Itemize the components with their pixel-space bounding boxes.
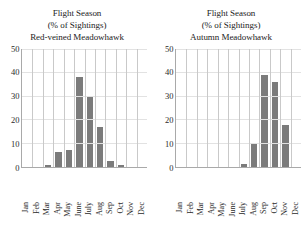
gridline-vertical — [74, 49, 75, 167]
y-axis-left: 01020304050 — [2, 49, 21, 168]
x-tick-label: May — [218, 202, 226, 217]
bar-slot — [270, 49, 280, 167]
gridline-vertical — [64, 49, 65, 167]
bar-slot — [291, 49, 301, 167]
chart-title-right-line3: Autumn Meadowhawk — [154, 31, 308, 43]
gridline-vertical — [95, 49, 96, 167]
x-tick-slot: Nov — [126, 200, 137, 240]
x-tick-label: July — [85, 202, 93, 215]
x-tick-slot: Sep — [259, 200, 270, 240]
x-tick-slot: Nov — [280, 200, 291, 240]
dual-bar-chart-figure: Flight Season (% of Sightings) Red-veine… — [0, 0, 308, 240]
x-tick-slot: Apr — [207, 200, 218, 240]
x-tick-slot: July — [84, 200, 95, 240]
x-tick-label: May — [64, 202, 72, 217]
x-tick-label: Oct — [271, 202, 279, 214]
x-axis-right: JanFebMarAprMayJuneJulyAugSepOctNovDec — [175, 200, 301, 240]
bar-slot — [228, 49, 238, 167]
gridline-vertical — [116, 49, 117, 167]
bar — [251, 144, 257, 166]
x-tick-slot: Sep — [105, 200, 116, 240]
bar — [97, 127, 103, 167]
x-tick-slot: Feb — [32, 200, 43, 240]
x-tick-label: July — [239, 202, 247, 215]
bar — [55, 152, 61, 166]
gridline-vertical — [137, 49, 138, 167]
y-axis-right: 01020304050 — [156, 49, 175, 168]
plot-area-left — [21, 49, 147, 168]
bar-slot — [85, 49, 95, 167]
gridline-vertical — [43, 49, 44, 167]
x-tick-label: Apr — [54, 202, 62, 214]
y-tick-label: 50 — [11, 44, 20, 54]
x-tick-label: Feb — [33, 202, 41, 214]
bar-slot — [197, 49, 207, 167]
x-tick-slot: Apr — [53, 200, 64, 240]
bar-slot — [95, 49, 105, 167]
gridline-vertical — [280, 49, 281, 167]
x-tick-label: Apr — [208, 202, 216, 214]
chart-title-right-line2: (% of Sightings) — [154, 19, 308, 31]
bar-slot — [43, 49, 53, 167]
gridline-vertical — [105, 49, 106, 167]
chart-title-left-line3: Red-veined Meadowhawk — [0, 31, 154, 43]
x-tick-label: Aug — [250, 202, 258, 216]
bar-slot — [207, 49, 217, 167]
x-tick-slot: Aug — [95, 200, 106, 240]
x-tick-slot: Oct — [270, 200, 281, 240]
gridline-vertical — [249, 49, 250, 167]
x-tick-slot: July — [238, 200, 249, 240]
y-tick-label: 0 — [169, 163, 173, 173]
gridline-vertical — [126, 49, 127, 167]
bar-slot — [176, 49, 186, 167]
x-tick-label: Sep — [106, 202, 114, 214]
chart-title-right: Flight Season (% of Sightings) Autumn Me… — [154, 0, 308, 44]
x-tick-label: Feb — [187, 202, 195, 214]
bar — [118, 165, 124, 166]
x-tick-slot: Oct — [116, 200, 127, 240]
x-tick-slot: June — [228, 200, 239, 240]
y-tick-label: 50 — [165, 44, 174, 54]
gridline-vertical — [259, 49, 260, 167]
gridline-vertical — [291, 49, 292, 167]
bar-slot — [53, 49, 63, 167]
x-tick-slot: Aug — [249, 200, 260, 240]
x-tick-slot: Dec — [137, 200, 148, 240]
bar — [107, 161, 113, 167]
y-tick-label: 10 — [11, 139, 20, 149]
x-tick-slot: May — [63, 200, 74, 240]
bar-slot — [137, 49, 147, 167]
chart-panel-red-veined-meadowhawk: Flight Season (% of Sightings) Red-veine… — [0, 0, 154, 240]
y-tick-label: 20 — [165, 115, 174, 125]
x-tick-label: Nov — [127, 202, 135, 216]
gridline-vertical — [186, 49, 187, 167]
bar-slot — [64, 49, 74, 167]
x-tick-slot: Feb — [186, 200, 197, 240]
y-tick-label: 30 — [11, 91, 20, 101]
bar — [282, 125, 288, 166]
gridline-vertical — [85, 49, 86, 167]
x-tick-label: Oct — [117, 202, 125, 214]
gridline-vertical — [239, 49, 240, 167]
x-tick-label: Sep — [260, 202, 268, 214]
gridline-vertical — [197, 49, 198, 167]
bar-slot — [126, 49, 136, 167]
plot-area-right — [175, 49, 301, 168]
x-tick-slot: Jan — [21, 200, 32, 240]
y-tick-label: 20 — [11, 115, 20, 125]
gridline-vertical — [32, 49, 33, 167]
x-tick-label: Dec — [292, 202, 300, 215]
chart-title-left-line1: Flight Season — [0, 7, 154, 19]
y-tick-label: 0 — [15, 163, 19, 173]
gridline-vertical — [228, 49, 229, 167]
x-tick-slot: Mar — [196, 200, 207, 240]
x-tick-label: June — [75, 202, 83, 217]
plot-wrap-left: 01020304050 — [0, 44, 154, 200]
x-tick-label: Nov — [281, 202, 289, 216]
bar-slot — [249, 49, 259, 167]
bar — [261, 75, 267, 167]
bar-slot — [32, 49, 42, 167]
bar-slot — [259, 49, 269, 167]
bar-slot — [280, 49, 290, 167]
bar — [241, 164, 247, 166]
